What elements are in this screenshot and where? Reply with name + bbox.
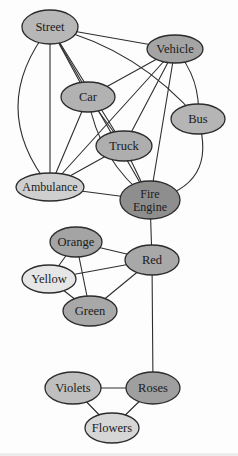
node-bus-ellipse [171, 104, 225, 134]
node-fire-engine-ellipse [120, 181, 180, 219]
node-ambulance: Ambulance [16, 173, 84, 201]
node-flowers: Flowers [85, 413, 139, 443]
node-truck-ellipse [96, 131, 152, 161]
node-roses-ellipse [126, 372, 180, 404]
node-ambulance-ellipse [16, 173, 84, 201]
node-street: Street [22, 10, 78, 44]
node-yellow-ellipse [22, 265, 76, 293]
node-street-ellipse [22, 10, 78, 44]
edge-vehicle-ambulance [50, 49, 175, 187]
node-truck: Truck [96, 131, 152, 161]
semantic-network-figure: StreetVehicleCarBusTruckAmbulanceFireEng… [0, 0, 238, 456]
edges-layer [18, 27, 203, 428]
nodes-layer: StreetVehicleCarBusTruckAmbulanceFireEng… [16, 10, 225, 443]
node-yellow: Yellow [22, 265, 76, 293]
node-fire-engine: FireEngine [120, 181, 180, 219]
semantic-network-svg: StreetVehicleCarBusTruckAmbulanceFireEng… [0, 0, 238, 456]
node-green: Green [63, 296, 117, 326]
node-orange: Orange [50, 227, 102, 257]
node-violets-ellipse [45, 372, 101, 404]
node-vehicle-ellipse [147, 35, 203, 63]
node-vehicle: Vehicle [147, 35, 203, 63]
node-car: Car [61, 82, 115, 112]
edge-red-roses [152, 260, 153, 388]
node-red: Red [125, 245, 179, 275]
node-red-ellipse [125, 245, 179, 275]
node-roses: Roses [126, 372, 180, 404]
node-bus: Bus [171, 104, 225, 134]
node-orange-ellipse [50, 227, 102, 257]
node-flowers-ellipse [85, 413, 139, 443]
node-car-ellipse [61, 82, 115, 112]
node-violets: Violets [45, 372, 101, 404]
edge-street-ambulance-curved [18, 27, 50, 187]
node-green-ellipse [63, 296, 117, 326]
